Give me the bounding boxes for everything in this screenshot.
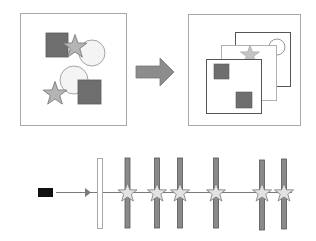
- right-arrow-icon: [136, 58, 174, 86]
- camera-icon: [38, 188, 53, 197]
- scene-square-2: [78, 80, 101, 104]
- ray-arrowhead-icon: [85, 188, 91, 197]
- diagram-canvas: [0, 0, 316, 241]
- scene-square-1: [46, 33, 68, 57]
- layers-panel: [189, 15, 301, 126]
- first-plane: [98, 159, 103, 229]
- ray-diagram: [38, 158, 294, 230]
- scene-panel: [21, 14, 127, 126]
- layer-front: [207, 60, 262, 114]
